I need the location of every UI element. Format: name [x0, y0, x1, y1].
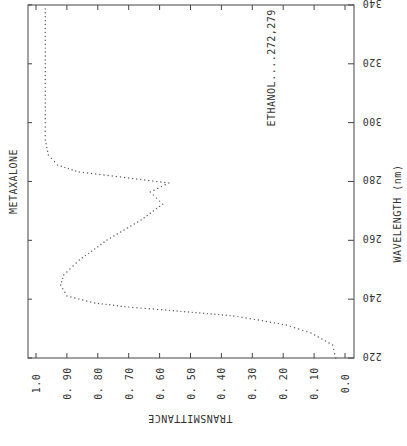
- transmittance-axis-label: TRANSMITTANCE: [140, 413, 240, 424]
- wavelength-tick-label: 340: [360, 0, 384, 9]
- transmittance-tick-label: 0. 10: [309, 366, 320, 402]
- solvent-annotation: ETHANOL....272,279: [266, 17, 277, 127]
- transmittance-tick-label: 0. 70: [123, 366, 134, 402]
- wavelength-tick-label: 300: [360, 116, 384, 127]
- transmittance-tick-label: 1.0: [31, 366, 42, 402]
- transmittance-tick-label: 0. 90: [61, 366, 72, 402]
- transmittance-tick-label: 0. 60: [154, 366, 165, 402]
- transmittance-tick-label: 0. 20: [278, 366, 289, 402]
- axis-ticks: [28, 5, 354, 358]
- wavelength-axis-label: WAVELENGTH (nm): [392, 164, 403, 264]
- wavelength-tick-label: 260: [360, 233, 384, 244]
- plot-frame: [28, 5, 354, 358]
- wavelength-tick-label: 220: [360, 351, 384, 362]
- wavelength-tick-label: 240: [360, 292, 384, 303]
- spectrum-curve: [45, 8, 337, 359]
- transmittance-tick-label: 0.0: [340, 366, 351, 402]
- transmittance-tick-label: 0. 80: [92, 366, 103, 402]
- transmittance-tick-label: 0. 40: [216, 366, 227, 402]
- chart-title: METAXALONE: [8, 147, 19, 217]
- transmittance-tick-label: 0. 50: [185, 366, 196, 402]
- wavelength-tick-label: 320: [360, 57, 384, 68]
- wavelength-tick-label: 280: [360, 174, 384, 185]
- transmittance-tick-label: 0. 30: [247, 366, 258, 402]
